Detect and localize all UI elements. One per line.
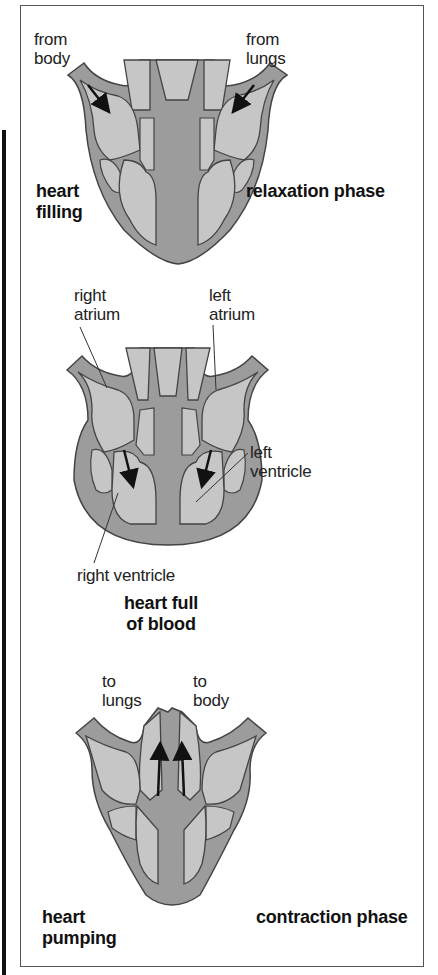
- label-line: lungs: [102, 691, 142, 710]
- label-line: body: [193, 691, 229, 710]
- label-line: heart: [42, 907, 117, 928]
- label-line: to: [102, 672, 142, 691]
- label-contraction-phase: contraction phase: [256, 907, 408, 928]
- label-heart-pumping: heart pumping: [42, 907, 117, 949]
- label-line: pumping: [42, 928, 117, 949]
- label-line: to: [193, 672, 229, 691]
- label-to-lungs: to lungs: [102, 672, 142, 710]
- heart-pumping-diagram: [0, 0, 438, 975]
- label-to-body: to body: [193, 672, 229, 710]
